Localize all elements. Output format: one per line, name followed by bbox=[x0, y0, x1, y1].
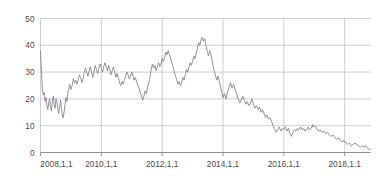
y-tick-label: 20 bbox=[25, 94, 35, 104]
x-tick-label: 2010,1,1 bbox=[85, 159, 118, 169]
x-tick-label: 2014,1,1 bbox=[207, 159, 240, 169]
data-series-line bbox=[41, 37, 371, 150]
x-tick-label: 2012,1,1 bbox=[146, 159, 179, 169]
axis-tick-marks bbox=[41, 153, 345, 157]
x-axis-tick-labels: 2008,1,12010,1,12012,1,12014,1,12016,1,1… bbox=[40, 159, 361, 169]
y-tick-label: 0 bbox=[30, 148, 35, 158]
y-tick-label: 50 bbox=[25, 14, 35, 24]
y-tick-label: 40 bbox=[25, 40, 35, 50]
y-tick-label: 30 bbox=[25, 67, 35, 77]
y-axis-tick-labels: 01020304050 bbox=[25, 14, 35, 158]
grid-lines bbox=[41, 19, 371, 153]
chart-container: 01020304050 2008,1,12010,1,12012,1,12014… bbox=[0, 0, 390, 182]
axis-lines bbox=[41, 19, 371, 153]
line-chart: 01020304050 2008,1,12010,1,12012,1,12014… bbox=[0, 0, 390, 182]
x-tick-label: 2018,1,1 bbox=[328, 159, 361, 169]
x-tick-label: 2008,1,1 bbox=[40, 159, 73, 169]
x-tick-label: 2016,1,1 bbox=[268, 159, 301, 169]
y-tick-label: 10 bbox=[25, 121, 35, 131]
